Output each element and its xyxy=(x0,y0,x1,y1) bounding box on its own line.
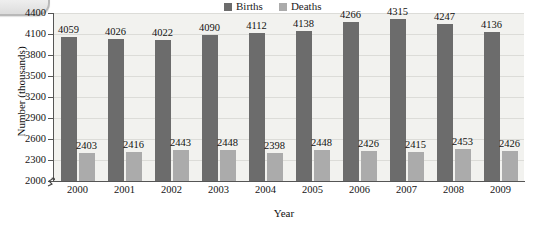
bar-births-2001 xyxy=(108,39,124,181)
bar-value-births-2004: 4112 xyxy=(237,21,277,32)
y-axis-tick xyxy=(48,118,54,119)
y-axis-tick xyxy=(48,76,54,77)
x-axis-title: Year xyxy=(254,208,314,219)
y-axis-title: Number (thousands) xyxy=(16,29,27,155)
bar-value-births-2006: 4266 xyxy=(331,10,371,21)
x-axis-tick-label: 2000 xyxy=(55,185,101,196)
bar-value-births-2009: 4136 xyxy=(472,20,512,31)
bar-value-deaths-2008: 2453 xyxy=(443,137,483,148)
y-axis-tick-label: 2300 xyxy=(2,155,46,166)
legend-entry-births: Births xyxy=(224,1,263,12)
bar-deaths-2001 xyxy=(126,152,142,181)
x-axis-line xyxy=(53,181,525,182)
legend-entry-deaths: Deaths xyxy=(279,1,322,12)
bar-deaths-2006 xyxy=(361,151,377,181)
bar-births-2009 xyxy=(484,32,500,182)
bar-births-2002 xyxy=(155,40,171,182)
x-axis-tick-label: 2008 xyxy=(431,185,477,196)
y-axis-tick xyxy=(48,34,54,35)
legend-label-births: Births xyxy=(236,1,263,12)
chart-figure: Births Deaths 40592403402624164022244340… xyxy=(0,0,537,227)
bar-births-2005 xyxy=(296,31,312,181)
bar-value-births-2002: 4022 xyxy=(143,28,183,39)
x-axis-tick-label: 2001 xyxy=(102,185,148,196)
bar-value-deaths-2007: 2415 xyxy=(396,140,436,151)
x-axis-tick-label: 2005 xyxy=(290,185,336,196)
bar-deaths-2007 xyxy=(408,152,424,181)
y-axis-tick xyxy=(48,160,54,161)
bar-deaths-2000 xyxy=(79,153,95,181)
bar-deaths-2004 xyxy=(267,153,283,181)
bar-births-2003 xyxy=(202,35,218,181)
x-axis-tick-label: 2006 xyxy=(337,185,383,196)
bar-deaths-2008 xyxy=(455,149,471,181)
x-axis-tick-label: 2004 xyxy=(243,185,289,196)
bar-deaths-2005 xyxy=(314,150,330,181)
bar-value-births-2001: 4026 xyxy=(96,27,136,38)
bar-value-births-2003: 4090 xyxy=(190,23,230,34)
chart-legend: Births Deaths xyxy=(224,1,321,12)
x-axis-tick-label: 2007 xyxy=(384,185,430,196)
bar-births-2008 xyxy=(437,24,453,181)
bar-value-births-2000: 4059 xyxy=(49,25,89,36)
y-axis-tick xyxy=(48,13,54,14)
y-axis-tick xyxy=(48,139,54,140)
x-axis-tick-label: 2002 xyxy=(149,185,195,196)
bar-value-births-2005: 4138 xyxy=(284,19,324,30)
bar-deaths-2002 xyxy=(173,150,189,181)
bar-value-deaths-2006: 2426 xyxy=(349,139,389,150)
bar-value-deaths-2002: 2443 xyxy=(161,138,201,149)
bar-births-2006 xyxy=(343,22,359,181)
bar-value-deaths-2005: 2448 xyxy=(302,138,342,149)
bar-deaths-2003 xyxy=(220,150,236,181)
x-axis-tick-label: 2009 xyxy=(478,185,524,196)
y-axis-tick xyxy=(48,55,54,56)
bar-value-births-2007: 4315 xyxy=(378,7,418,18)
bars-layer: 4059240340262416402224434090244841122398… xyxy=(54,13,524,181)
y-axis-tick xyxy=(48,97,54,98)
bar-value-deaths-2000: 2403 xyxy=(67,141,107,152)
y-axis-tick-label: 2000 xyxy=(2,176,46,187)
legend-label-deaths: Deaths xyxy=(291,1,322,12)
bar-value-deaths-2004: 2398 xyxy=(255,141,295,152)
bar-births-2000 xyxy=(61,37,77,181)
x-axis-tick-label: 2003 xyxy=(196,185,242,196)
bar-value-deaths-2009: 2426 xyxy=(490,139,530,150)
bar-value-deaths-2003: 2448 xyxy=(208,138,248,149)
bar-births-2004 xyxy=(249,33,265,181)
bar-value-births-2008: 4247 xyxy=(425,12,465,23)
legend-swatch-births xyxy=(224,3,232,11)
bar-births-2007 xyxy=(390,19,406,181)
y-axis-tick-label: 4400 xyxy=(2,8,46,19)
bar-value-deaths-2001: 2416 xyxy=(114,140,154,151)
legend-swatch-deaths xyxy=(279,3,287,11)
bar-deaths-2009 xyxy=(502,151,518,181)
